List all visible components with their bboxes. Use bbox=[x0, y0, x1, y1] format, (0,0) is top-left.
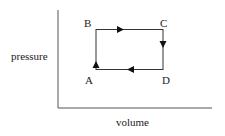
cycle-rectangle bbox=[96, 30, 163, 70]
x-axis-label: volume bbox=[116, 116, 149, 128]
y-axis-label: pressure bbox=[11, 50, 48, 62]
point-label-a: A bbox=[85, 74, 93, 86]
axes bbox=[58, 10, 212, 108]
point-label-c: C bbox=[160, 17, 167, 29]
pv-diagram: pressure volume B C A D bbox=[0, 0, 225, 136]
cycle-path bbox=[93, 26, 167, 73]
arrow-a-to-b-icon bbox=[93, 61, 100, 68]
point-label-b: B bbox=[84, 17, 91, 29]
arrow-b-to-c-icon bbox=[117, 26, 124, 33]
arrow-d-to-a-icon bbox=[127, 66, 134, 73]
point-label-d: D bbox=[162, 74, 170, 86]
arrow-c-to-d-icon bbox=[160, 41, 167, 48]
